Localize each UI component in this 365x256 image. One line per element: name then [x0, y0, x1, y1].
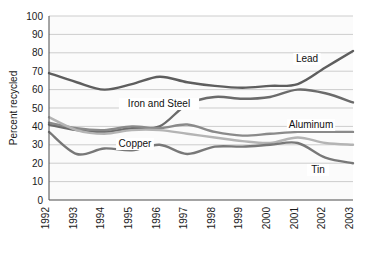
x-tick-label-2003: 2003: [344, 207, 355, 230]
recycling-rates-line-chart: 0102030405060708090100 19921993199419951…: [0, 0, 365, 256]
y-tick-label-20: 20: [32, 158, 44, 169]
y-tick-label-100: 100: [26, 11, 43, 22]
x-tick-label-2000: 2000: [261, 207, 272, 230]
series-label-aluminum: Aluminum: [289, 119, 333, 130]
series-label-lead: Lead: [296, 53, 318, 64]
y-tick-label-10: 10: [32, 176, 44, 187]
x-tick-label-1995: 1995: [123, 207, 134, 230]
series-label-tin: Tin: [311, 164, 325, 175]
y-tick-label-90: 90: [32, 29, 44, 40]
chart-canvas: 0102030405060708090100 19921993199419951…: [0, 0, 365, 256]
x-tick-label-2001: 2001: [289, 207, 300, 230]
x-tick-label-1996: 1996: [151, 207, 162, 230]
x-tick-label-1993: 1993: [68, 207, 79, 230]
y-tick-label-70: 70: [32, 66, 44, 77]
x-tick-label-1999: 1999: [233, 207, 244, 230]
y-tick-label-50: 50: [32, 103, 44, 114]
x-tick-label-2002: 2002: [316, 207, 327, 230]
y-tick-label-30: 30: [32, 139, 44, 150]
y-tick-label-0: 0: [37, 195, 43, 206]
y-tick-label-40: 40: [32, 121, 44, 132]
x-tick-label-1998: 1998: [206, 207, 217, 230]
series-label-iron-and-steel: Iron and Steel: [128, 98, 190, 109]
y-tick-label-80: 80: [32, 47, 44, 58]
y-axis-title: Percent recycled: [8, 71, 19, 145]
series-label-copper: Copper: [119, 138, 152, 149]
x-tick-label-1997: 1997: [178, 207, 189, 230]
y-tick-label-60: 60: [32, 84, 44, 95]
x-tick-label-1994: 1994: [95, 207, 106, 230]
x-tick-label-1992: 1992: [40, 207, 51, 230]
